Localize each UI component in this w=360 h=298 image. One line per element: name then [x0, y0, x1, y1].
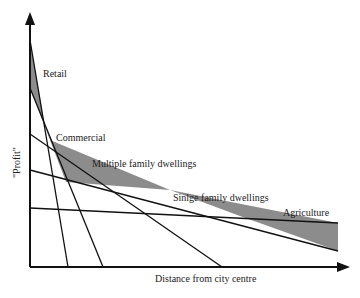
y-axis-label: "Profit": [12, 147, 22, 178]
label-commercial: Commercial: [56, 133, 105, 143]
y-axis-arrow-icon: [25, 12, 35, 25]
label-agriculture: Agriculture: [283, 208, 329, 218]
label-single-family: Sinlge family dwellings: [173, 193, 269, 203]
bid-rent-diagram: [0, 0, 360, 298]
x-axis-arrow-icon: [337, 262, 350, 272]
label-retail: Retail: [43, 69, 67, 79]
label-multiple-family: Multiple family dwellings: [92, 159, 196, 169]
x-axis-label: Distance from city centre: [155, 274, 256, 284]
